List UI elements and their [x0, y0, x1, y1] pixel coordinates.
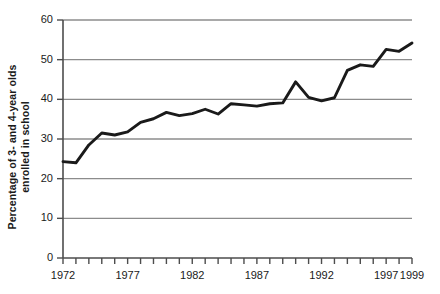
x-tick-label: 1999	[400, 270, 424, 281]
y-axis-ticks	[57, 20, 63, 258]
plot-area	[0, 0, 440, 294]
x-tick-label: 1977	[115, 270, 139, 281]
y-tick-label: 60	[27, 14, 53, 25]
x-axis-ticks	[63, 258, 412, 264]
y-tick-label: 0	[27, 252, 53, 263]
x-tick-label: 1982	[180, 270, 204, 281]
data-series-line	[63, 43, 412, 163]
y-tick-label: 20	[27, 173, 53, 184]
x-tick-label: 1987	[245, 270, 269, 281]
gridlines	[63, 20, 412, 218]
x-tick-label: 1972	[51, 270, 75, 281]
x-tick-label: 1992	[309, 270, 333, 281]
x-tick-label: 1997	[374, 270, 398, 281]
y-tick-label: 50	[27, 54, 53, 65]
y-tick-label: 30	[27, 133, 53, 144]
y-tick-label: 10	[27, 212, 53, 223]
line-chart: Percentage of 3- and 4-year olds enrolle…	[0, 0, 440, 294]
y-tick-label: 40	[27, 93, 53, 104]
